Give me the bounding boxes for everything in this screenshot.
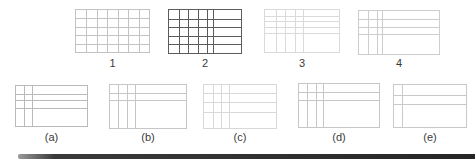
grid-2-vline [207, 10, 208, 53]
grid-c-hline [204, 112, 276, 113]
grid-pattern-figure: 1234(a)(b)(c)(d)(e) [0, 0, 475, 159]
grid-1-hline [76, 27, 149, 28]
grid-1-vline [97, 10, 98, 52]
grid-2-vline [188, 10, 189, 53]
grid-2 [168, 9, 242, 54]
grid-b-vline [118, 85, 119, 128]
grid-3 [264, 9, 340, 53]
grid-3-hline [265, 21, 339, 22]
grid-4-vline [382, 11, 383, 54]
grid-b-hline [110, 93, 186, 94]
grid-2-vline [198, 10, 199, 53]
grid-d [298, 83, 380, 128]
grid-d-vline [316, 84, 317, 127]
grid-d-label: (d) [298, 130, 380, 144]
grid-a-hline [16, 100, 87, 101]
grid-a-vline [32, 86, 33, 126]
grid-1-vline [107, 10, 108, 52]
grid-2-hline [169, 36, 241, 37]
grid-4 [358, 10, 440, 55]
grid-c-vline [213, 85, 214, 128]
grid-1-hline [76, 44, 149, 45]
grid-b-vline [135, 85, 136, 128]
grid-1-hline [76, 18, 149, 19]
page-edge-shadow [18, 154, 475, 159]
grid-3-hline [265, 33, 339, 34]
grid-2-hline [169, 44, 241, 45]
grid-2-hline [169, 27, 241, 28]
grid-e-label: (e) [393, 130, 467, 144]
grid-d-vline [323, 84, 324, 127]
grid-2-label: 2 [168, 56, 242, 70]
grid-1-label: 1 [75, 56, 150, 70]
grid-a-hline [16, 108, 87, 109]
grid-c-hline [204, 102, 276, 103]
grid-e [393, 84, 467, 128]
grid-c [203, 84, 277, 129]
grid-b-hline [110, 100, 186, 101]
grid-a-hline [16, 94, 87, 95]
grid-2-hline [169, 19, 241, 20]
grid-4-hline [359, 27, 439, 28]
grid-4-hline [359, 19, 439, 20]
grid-2-vline [179, 10, 180, 53]
grid-b-vline [127, 85, 128, 128]
grid-a [15, 85, 88, 127]
grid-4-label: 4 [358, 56, 440, 70]
grid-b [109, 84, 187, 129]
grid-1-vline [139, 10, 140, 52]
grid-4-vline [368, 11, 369, 54]
grid-d-hline [299, 92, 379, 93]
grid-c-hline [204, 93, 276, 94]
grid-c-vline [221, 85, 222, 128]
grid-3-hline [265, 16, 339, 17]
grid-3-hline [265, 27, 339, 28]
grid-1-vline [118, 10, 119, 52]
grid-b-label: (b) [109, 130, 187, 144]
grid-e-hline [394, 95, 466, 96]
grid-4-hline [359, 34, 439, 35]
grid-e-hline [394, 104, 466, 105]
grid-c-vline [229, 85, 230, 128]
grid-d-hline [299, 100, 379, 101]
grid-4-vline [377, 11, 378, 54]
grid-3-label: 3 [264, 56, 340, 70]
grid-a-label: (a) [15, 130, 88, 144]
grid-e-vline [402, 85, 403, 127]
grid-1-vline [86, 10, 87, 52]
grid-d-vline [307, 84, 308, 127]
grid-2-vline [213, 10, 214, 53]
grid-c-label: (c) [203, 130, 277, 144]
grid-1-hline [76, 35, 149, 36]
grid-1-vline [128, 10, 129, 52]
grid-a-vline [24, 86, 25, 126]
grid-1 [75, 9, 150, 53]
